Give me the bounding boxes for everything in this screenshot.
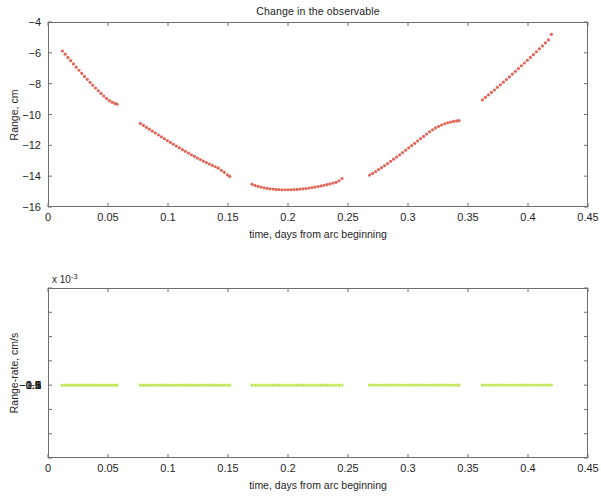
multiplier-exponent: -3 xyxy=(71,272,78,281)
range-rate-axis-multiplier: x 10-3 xyxy=(52,272,78,285)
x-tick-label: 0 xyxy=(45,462,51,474)
x-tick-label: 0.15 xyxy=(217,462,238,474)
multiplier-mantissa: x 10 xyxy=(52,274,71,285)
range-rate-plot-series xyxy=(61,383,553,386)
x-tick-label: 0.3 xyxy=(400,462,415,474)
x-tick-label: 0.4 xyxy=(520,462,535,474)
x-tick-label: 0.25 xyxy=(337,462,358,474)
figure-root: Change in the observable −4−6−8−10−12−14… xyxy=(0,0,601,501)
range-rate-plot-canvas xyxy=(0,0,601,501)
y-tick-label: −1.5 xyxy=(0,379,41,391)
range-rate-plot-x-axis-label: time, days from arc beginning xyxy=(48,479,588,491)
x-tick-label: 0.1 xyxy=(160,462,175,474)
x-tick-label: 0.45 xyxy=(577,462,598,474)
x-tick-label: 0.05 xyxy=(97,462,118,474)
range-rate-plot-panel: x 10-3 21.510.50−0.5−1−1.5 00.050.10.150… xyxy=(0,0,601,501)
x-tick-label: 0.35 xyxy=(457,462,478,474)
range-rate-plot-y-axis-label: Range-rate, cm/s xyxy=(8,333,20,414)
x-tick-label: 0.2 xyxy=(280,462,295,474)
